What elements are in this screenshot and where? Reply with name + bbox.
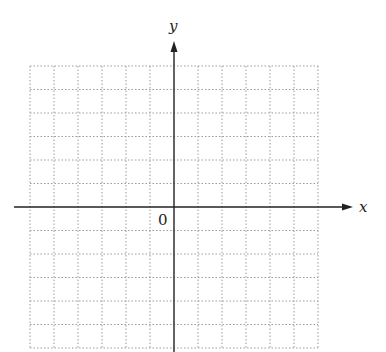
- y-axis-label: y: [168, 17, 178, 35]
- origin-label: 0: [158, 211, 168, 229]
- x-axis-label: x: [359, 198, 368, 216]
- coordinate-plane: y x 0: [0, 0, 386, 352]
- x-axis-arrow-icon: [342, 204, 353, 211]
- y-axis-arrow-icon: [171, 41, 178, 52]
